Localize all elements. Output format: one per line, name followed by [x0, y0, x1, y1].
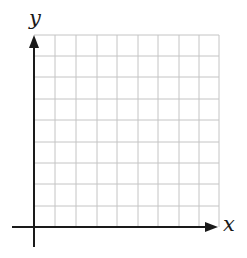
x-axis-arrow-icon [205, 222, 218, 232]
x-axis-label: x [223, 214, 235, 235]
grid-svg [0, 0, 247, 258]
coordinate-plane: y x [0, 0, 247, 258]
x-axis [12, 222, 218, 232]
grid-lines [34, 35, 219, 227]
y-axis-label: y [29, 8, 41, 29]
y-axis [29, 35, 39, 247]
y-axis-arrow-icon [29, 35, 39, 48]
